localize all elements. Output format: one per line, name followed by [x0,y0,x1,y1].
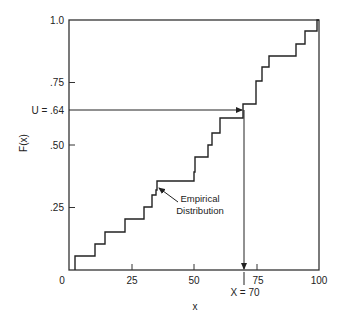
xtick-label-100: 100 [311,275,328,286]
ytick-label-1.0: 1.0 [50,15,64,26]
x-axis-ticks [132,264,257,270]
xtick-label-50: 50 [188,275,200,286]
xtick-label-0: 0 [59,275,65,286]
ytick-label-0.50: .50 [50,140,64,151]
empirical-distribution-step-line [75,20,319,270]
u-label: U = .64 [31,105,64,116]
annotation-pointer-arrow [159,188,178,202]
ytick-label-0.25: .25 [50,202,64,213]
xtick-label-25: 25 [126,275,138,286]
y-axis-label: F(x) [18,134,29,152]
chart: 1.0 .75 U = .64 .50 .25 F(x) 0 25 50 75 … [0,0,341,324]
xtick-label-75: 75 [252,275,264,286]
annotation-label-line1: Empirical [180,193,219,204]
ytick-label-0.75: .75 [50,77,64,88]
x-marker-label: X = 70 [230,287,260,298]
annotation-label-line2: Distribution [176,205,224,216]
y-axis-ticks [69,83,75,208]
x-axis-label: x [193,301,198,312]
